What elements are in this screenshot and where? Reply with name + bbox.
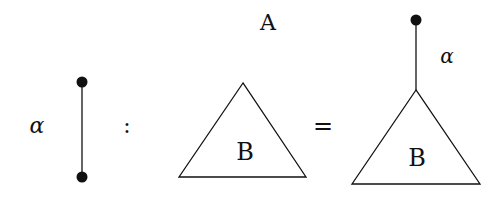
edge-bottom-node xyxy=(77,172,88,183)
right-tree-label: B xyxy=(408,144,426,172)
equals-operator: = xyxy=(313,112,333,140)
grafting-diagram: α : B = A α B xyxy=(0,0,503,197)
root-label-a: A xyxy=(259,10,277,35)
edge-alpha-label: α xyxy=(30,113,45,138)
colon-operator: : xyxy=(123,113,130,138)
left-tree-label: B xyxy=(236,138,254,166)
graft-edge-alpha-label: α xyxy=(440,44,454,68)
edge-top-node xyxy=(77,77,88,88)
